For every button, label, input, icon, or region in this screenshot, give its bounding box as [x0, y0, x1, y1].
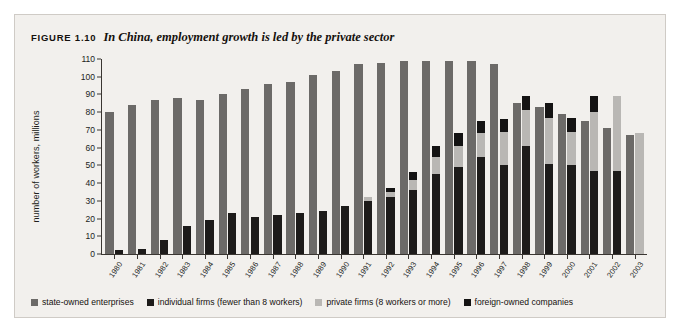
bar-segment-state-owned	[105, 112, 113, 254]
bar-segment-private	[545, 118, 553, 164]
bar-segment-individual	[296, 213, 304, 254]
bar-private-sector-stack	[567, 118, 575, 255]
bar-group	[510, 59, 533, 254]
x-tick-mark	[612, 255, 613, 259]
bar-segment-individual	[500, 165, 508, 254]
x-tick-label: 1996	[469, 260, 486, 280]
y-tick-mark	[97, 59, 101, 60]
bar-state-owned	[219, 94, 227, 254]
figure-panel: FIGURE 1.10In China, employment growth i…	[14, 14, 666, 318]
bar-segment-private	[635, 133, 643, 254]
x-tick-label: 1989	[311, 260, 328, 280]
y-tick-label: 10	[86, 231, 95, 241]
y-tick-mark	[97, 236, 101, 237]
bar-segment-state-owned	[264, 84, 272, 254]
bar-group	[465, 59, 488, 254]
x-tick-mark	[635, 255, 636, 259]
x-tick-label: 1985	[220, 260, 237, 280]
y-tick-mark	[97, 165, 101, 166]
y-tick-mark	[97, 94, 101, 95]
x-tick-mark	[273, 255, 274, 259]
bar-segment-individual	[138, 249, 146, 254]
bar-segment-individual	[251, 217, 259, 254]
bar-segment-state-owned	[490, 64, 498, 254]
bar-segment-individual	[341, 206, 349, 254]
bar-private-sector-stack	[341, 206, 349, 254]
bar-private-sector-stack	[545, 103, 553, 254]
bar-state-owned	[173, 98, 181, 254]
x-tick-mark	[205, 255, 206, 259]
bar-state-owned	[241, 89, 249, 254]
bar-private-sector-stack	[522, 96, 530, 254]
x-axis-labels: 1980198119821983198419851986198719881989…	[103, 260, 646, 300]
bar-segment-foreign	[590, 96, 598, 112]
legend-label: individual firms (fewer than 8 workers)	[158, 297, 303, 307]
bar-segment-state-owned	[581, 121, 589, 254]
x-tick-label: 1998	[515, 260, 532, 280]
bar-segment-foreign	[432, 146, 440, 157]
x-tick-mark	[363, 255, 364, 259]
bar-private-sector-stack	[500, 119, 508, 254]
y-tick-label: 30	[86, 196, 95, 206]
bar-group	[623, 59, 646, 254]
bar-segment-foreign	[545, 103, 553, 117]
x-tick-mark	[114, 255, 115, 259]
bar-group	[375, 59, 398, 254]
bar-private-sector-stack	[183, 226, 191, 254]
bar-segment-individual	[590, 171, 598, 254]
x-tick-label: 1994	[424, 260, 441, 280]
bar-segment-state-owned	[558, 114, 566, 254]
bar-segment-individual	[386, 197, 394, 254]
y-tick-mark	[97, 129, 101, 130]
bar-state-owned	[400, 61, 408, 254]
bar-state-owned	[445, 61, 453, 254]
bar-segment-individual	[205, 220, 213, 254]
bar-segment-private	[613, 96, 621, 170]
bar-private-sector-stack	[590, 96, 598, 254]
bar-state-owned	[354, 64, 362, 254]
x-tick-mark	[386, 255, 387, 259]
bar-group	[171, 59, 194, 254]
legend-swatch-icon	[315, 299, 322, 306]
bar-state-owned	[513, 103, 521, 254]
bar-segment-foreign	[409, 172, 417, 179]
bar-private-sector-stack	[613, 96, 621, 254]
y-tick-mark	[97, 200, 101, 201]
y-tick-label: 60	[86, 143, 95, 153]
x-tick-mark	[160, 255, 161, 259]
x-tick-mark	[522, 255, 523, 259]
x-tick-label: 1981	[130, 260, 147, 280]
bar-group	[216, 59, 239, 254]
bar-group	[148, 59, 171, 254]
bar-state-owned	[467, 61, 475, 254]
y-tick-label: 50	[86, 160, 95, 170]
bar-group	[556, 59, 579, 254]
x-tick-mark	[454, 255, 455, 259]
bar-segment-individual	[319, 211, 327, 254]
bar-state-owned	[309, 75, 317, 254]
bar-group	[329, 59, 352, 254]
bar-state-owned	[264, 84, 272, 254]
bar-state-owned	[535, 107, 543, 254]
y-tick-mark	[97, 183, 101, 184]
bar-segment-foreign	[500, 119, 508, 131]
x-tick-label: 2002	[605, 260, 622, 280]
bar-segment-state-owned	[332, 71, 340, 254]
x-tick-label: 1990	[334, 260, 351, 280]
y-tick-mark	[97, 254, 101, 255]
bar-segment-state-owned	[241, 89, 249, 254]
bar-state-owned	[581, 121, 589, 254]
bar-state-owned	[558, 114, 566, 254]
legend-item-state: state-owned enterprises	[31, 297, 134, 307]
y-tick-label: 80	[86, 107, 95, 117]
bar-segment-state-owned	[128, 105, 136, 254]
bar-segment-private	[409, 180, 417, 191]
bar-state-owned	[196, 100, 204, 254]
bar-segment-state-owned	[377, 63, 385, 254]
bar-segment-state-owned	[513, 103, 521, 254]
y-tick-mark	[97, 76, 101, 77]
bar-segment-state-owned	[196, 100, 204, 254]
x-tick-mark	[137, 255, 138, 259]
bar-segment-private	[500, 132, 508, 166]
bar-private-sector-stack	[409, 172, 417, 254]
